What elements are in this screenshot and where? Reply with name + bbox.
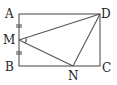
angle-mark-m	[25, 38, 26, 43]
label-b: B	[5, 60, 14, 74]
label-c: C	[102, 61, 111, 75]
rectangle-abcd	[19, 14, 100, 66]
segment-mn	[19, 40, 73, 66]
segment-md	[19, 14, 100, 40]
label-a: A	[4, 7, 14, 21]
label-n: N	[68, 69, 79, 83]
label-m: M	[3, 33, 15, 47]
geometry-diagram: A M B D C N	[0, 0, 117, 85]
label-d: D	[101, 7, 111, 21]
